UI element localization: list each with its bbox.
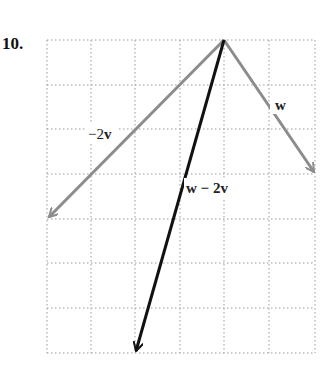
label-w-minus-2v: w − 2v xyxy=(186,180,228,196)
vector-diagram: w −2v w − 2v xyxy=(0,0,327,387)
label-w: w xyxy=(275,97,286,113)
label-neg-2v: −2v xyxy=(88,126,112,142)
